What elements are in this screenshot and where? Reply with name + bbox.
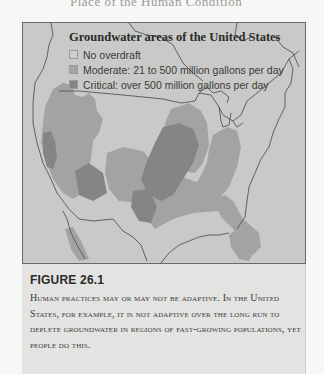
figure-26-1: Groundwater areas of the United States N… [22,22,306,367]
legend-item-critical: Critical: over 500 million gallons per d… [69,77,284,92]
figure-number: FIGURE 26.1 [30,273,104,287]
caption-box: FIGURE 26.1 Human practices may or may n… [22,264,306,374]
swatch-no-overdraft [69,50,78,59]
groundwater-map: Groundwater areas of the United States N… [22,22,306,265]
legend-item-no-overdraft: No overdraft [69,47,284,62]
figure-caption: Human practices may or may not be adapti… [30,290,302,352]
legend-title: Groundwater areas of the United States [69,30,284,45]
legend-label: No overdraft [83,49,141,61]
previous-text-fragment: Place of the Human Condition [70,0,242,10]
swatch-critical [69,80,78,89]
swatch-moderate [69,65,78,74]
map-legend: Groundwater areas of the United States N… [69,30,284,92]
legend-item-moderate: Moderate: 21 to 500 million gallons per … [69,62,284,77]
legend-label: Critical: over 500 million gallons per d… [83,79,269,91]
legend-label: Moderate: 21 to 500 million gallons per … [83,64,284,76]
